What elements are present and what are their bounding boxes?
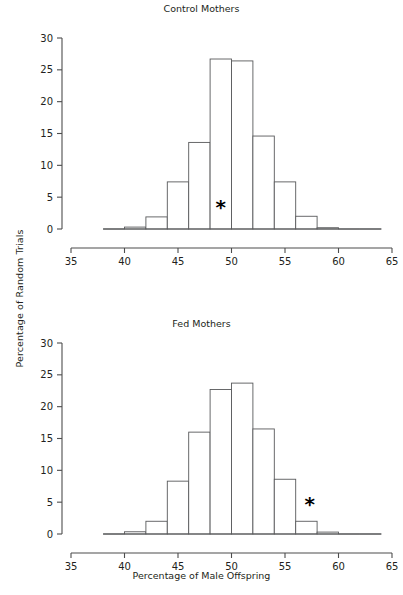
y-tick-label: 10 [40, 160, 53, 171]
y-tick-label: 20 [40, 401, 53, 412]
histogram-control-mothers: 05101520253035404550556065* [0, 0, 403, 300]
x-tick-label: 65 [386, 561, 399, 572]
histogram-bar [274, 479, 295, 534]
x-tick-label: 45 [172, 256, 185, 267]
y-tick-label: 30 [40, 338, 53, 349]
y-tick-label: 25 [40, 64, 53, 75]
x-tick-label: 45 [172, 561, 185, 572]
chart-panel-fed-mothers: 05101520253035404550556065* [0, 305, 403, 595]
y-tick-label: 15 [40, 128, 53, 139]
histogram-bar [296, 521, 317, 534]
x-tick-label: 65 [386, 256, 399, 267]
x-tick-label: 60 [332, 561, 345, 572]
histogram-bar [232, 61, 253, 229]
histogram-bar [274, 182, 295, 229]
histogram-bar [189, 432, 210, 534]
x-tick-label: 40 [118, 256, 131, 267]
observed-value-asterisk: * [216, 195, 227, 219]
y-tick-label: 15 [40, 433, 53, 444]
y-tick-label: 30 [40, 33, 53, 44]
histogram-bar [167, 481, 188, 534]
y-tick-label: 25 [40, 369, 53, 380]
y-tick-label: 10 [40, 465, 53, 476]
histogram-fed-mothers: 05101520253035404550556065* [0, 305, 403, 595]
histogram-bar [253, 429, 274, 534]
x-tick-label: 40 [118, 561, 131, 572]
observed-value-asterisk: * [304, 492, 315, 516]
x-tick-label: 60 [332, 256, 345, 267]
histogram-bar [232, 383, 253, 534]
histogram-bar [296, 216, 317, 229]
histogram-bar [253, 136, 274, 229]
x-tick-label: 50 [225, 561, 238, 572]
x-tick-label: 50 [225, 256, 238, 267]
histogram-bar [210, 389, 231, 534]
y-tick-label: 20 [40, 96, 53, 107]
histogram-bar [189, 142, 210, 229]
y-tick-label: 0 [47, 224, 53, 235]
histogram-bar [146, 217, 167, 229]
x-tick-label: 55 [279, 256, 292, 267]
x-tick-label: 35 [65, 256, 78, 267]
x-tick-label: 55 [279, 561, 292, 572]
figure-histograms: Percentage of Random Trials Percentage o… [0, 0, 403, 595]
y-tick-label: 5 [47, 497, 53, 508]
histogram-bar [167, 182, 188, 229]
y-tick-label: 5 [47, 192, 53, 203]
x-tick-label: 35 [65, 561, 78, 572]
chart-panel-control-mothers: 05101520253035404550556065* [0, 0, 403, 300]
y-tick-label: 0 [47, 529, 53, 540]
histogram-bar [146, 521, 167, 534]
